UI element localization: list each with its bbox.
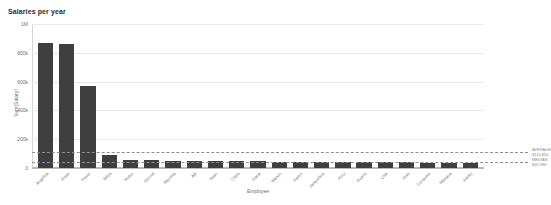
x-axis-tick-label: Jacqueline xyxy=(307,171,325,189)
bar-slot[interactable] xyxy=(205,24,226,168)
bar[interactable] xyxy=(80,86,95,168)
bar-slot[interactable] xyxy=(56,24,77,168)
bar-series xyxy=(32,24,484,168)
x-tick-slot: Mariana xyxy=(438,170,459,200)
x-axis-tick-label: Jesse xyxy=(59,171,70,182)
x-tick-slot: Consuelo xyxy=(417,170,438,200)
x-tick-slot: Dana xyxy=(247,170,268,200)
x-tick-slot: Jose xyxy=(396,170,417,200)
y-axis-tick-label: 400k xyxy=(17,107,28,113)
bar[interactable] xyxy=(123,160,138,168)
bar-slot[interactable] xyxy=(99,24,120,168)
bar[interactable] xyxy=(463,163,478,168)
x-axis-tick-label: Robin xyxy=(123,171,134,182)
plot-area: 1M800k600k400k200k0 AVERAGE$110,850MEDIA… xyxy=(32,24,484,168)
bar-slot[interactable] xyxy=(396,24,417,168)
bar-slot[interactable] xyxy=(77,24,98,168)
x-axis-tick-label: Jose xyxy=(400,171,410,181)
bar-slot[interactable] xyxy=(438,24,459,168)
bar-slot[interactable] xyxy=(290,24,311,168)
bar[interactable] xyxy=(59,44,74,168)
x-axis-tick-label: Dana xyxy=(251,171,262,182)
x-tick-slot: Dennis xyxy=(141,170,162,200)
bar-slot[interactable] xyxy=(226,24,247,168)
chart-title: Salaries per year xyxy=(8,8,66,15)
bar-slot[interactable] xyxy=(269,24,290,168)
x-tick-slot: Miles xyxy=(99,170,120,200)
bar-slot[interactable] xyxy=(417,24,438,168)
x-tick-slot: Ajit xyxy=(184,170,205,200)
x-axis-tick-label: Dennis xyxy=(143,171,156,184)
bar-slot[interactable] xyxy=(354,24,375,168)
x-tick-slot: Clara xyxy=(226,170,247,200)
y-axis-tick-label: 200k xyxy=(17,136,28,142)
reference-line-average xyxy=(32,152,528,153)
x-axis-tick-label: Duane xyxy=(355,171,367,183)
y-axis-tick-label: 0 xyxy=(25,165,28,171)
x-axis-tick-label: Clara xyxy=(230,171,241,182)
reference-label-median: MEDIAN$39,386 xyxy=(532,157,548,167)
bar-slot[interactable] xyxy=(184,24,205,168)
bar-slot[interactable] xyxy=(35,24,56,168)
x-axis-tick-label: Consuelo xyxy=(415,171,431,187)
bar-slot[interactable] xyxy=(247,24,268,168)
y-axis-tick-label: 800k xyxy=(17,50,28,56)
y-axis-tick-label: 1M xyxy=(21,21,28,27)
x-tick-slot: Angelica xyxy=(35,170,56,200)
gridline xyxy=(32,168,484,169)
reference-label-value: $39,386 xyxy=(532,162,548,167)
bar[interactable] xyxy=(38,43,53,168)
bar-slot[interactable] xyxy=(460,24,481,168)
x-tick-slot: Trevor xyxy=(77,170,98,200)
x-axis-tick-label: Lola xyxy=(380,171,389,180)
x-axis-tick-label: Marvin xyxy=(270,171,282,183)
bar-slot[interactable] xyxy=(141,24,162,168)
bar-slot[interactable] xyxy=(332,24,353,168)
x-axis-ticks: AngelicaJesseTrevorMilesRobinDennisMarce… xyxy=(32,170,484,200)
x-tick-slot: Rory xyxy=(332,170,353,200)
x-tick-slot: Jesse xyxy=(56,170,77,200)
x-axis-tick-label: Karen xyxy=(293,171,304,182)
x-axis-tick-label: Miles xyxy=(102,171,112,181)
x-axis-tick-label: Sean xyxy=(209,171,219,181)
bar-slot[interactable] xyxy=(162,24,183,168)
x-tick-slot: Marcela xyxy=(162,170,183,200)
x-axis-tick-label: Jimmy xyxy=(462,171,474,183)
x-tick-slot: Jimmy xyxy=(460,170,481,200)
x-axis-tick-label: Rory xyxy=(337,171,347,181)
x-axis-tick-label: Trevor xyxy=(80,171,92,183)
reference-line-median xyxy=(32,162,528,163)
x-axis-tick-label: Angelica xyxy=(34,171,49,186)
bar-slot[interactable] xyxy=(120,24,141,168)
y-axis-tick-label: 600k xyxy=(17,79,28,85)
x-tick-slot: Marvin xyxy=(269,170,290,200)
bar[interactable] xyxy=(441,163,456,168)
bar-slot[interactable] xyxy=(311,24,332,168)
x-tick-slot: Sean xyxy=(205,170,226,200)
x-axis-title: Employee xyxy=(32,188,484,194)
bar[interactable] xyxy=(420,163,435,168)
x-axis-tick-label: Marcela xyxy=(162,171,176,185)
reference-label-value: $110,850 xyxy=(532,152,551,157)
x-tick-slot: Duane xyxy=(354,170,375,200)
x-tick-slot: Jacqueline xyxy=(311,170,332,200)
x-tick-slot: Robin xyxy=(120,170,141,200)
reference-label-average: AVERAGE$110,850 xyxy=(532,147,551,157)
x-axis-tick-label: Ajit xyxy=(190,171,198,179)
bar-slot[interactable] xyxy=(375,24,396,168)
x-tick-slot: Lola xyxy=(375,170,396,200)
x-axis-tick-label: Mariana xyxy=(438,171,452,185)
